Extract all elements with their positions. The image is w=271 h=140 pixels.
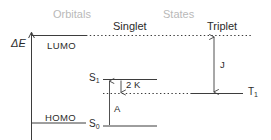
absorption-label: A [114,104,120,114]
s0-label-subscript: 0 [96,123,100,130]
column-header-states: States [163,9,194,20]
t1-label: T1 [248,87,258,97]
column-header-orbitals: Orbitals [53,9,91,20]
s0-label: S0 [89,119,100,129]
exchange-splitting-label: 2 K [126,80,140,90]
exchange-coupling-label: J [220,60,225,70]
energy-axis-label: ΔE [11,38,26,49]
homo-label: HOMO [45,113,76,123]
s1-label-text: S [89,72,96,83]
column-header-triplet: Triplet [207,21,237,32]
s0-label-text: S [89,118,96,129]
s1-label: S1 [89,73,100,83]
column-header-singlet: Singlet [113,21,147,32]
energy-axis [29,32,35,140]
energy-level-diagram: Orbitals States Singlet Triplet ΔE LUMO … [0,0,271,140]
s1-label-subscript: 1 [96,77,100,84]
lumo-label: LUMO [47,41,76,51]
t1-label-subscript: 1 [254,91,258,98]
